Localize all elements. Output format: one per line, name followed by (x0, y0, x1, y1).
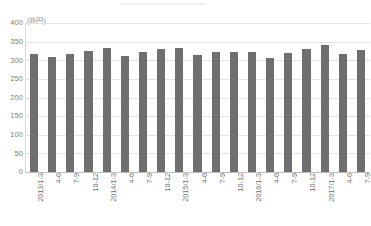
bar (230, 52, 238, 172)
bar (339, 54, 347, 172)
bar (212, 52, 220, 172)
top-edge-artifact (120, 3, 206, 5)
y-axis-tick-label: 300 (1, 57, 23, 64)
y-axis-tick-label: 150 (1, 112, 23, 119)
x-axis-tick-label: 2014/1-3 (110, 173, 117, 225)
y-axis-tick-label: 400 (1, 19, 23, 26)
x-axis-tick-label: 4-6 (55, 173, 62, 225)
bar-chart: (兆円) 400350300250200150100500 2013/1-34-… (0, 0, 371, 226)
x-axis-tick-label: 7-9 (291, 173, 298, 225)
x-axis-tick-label: 7-9 (219, 173, 226, 225)
bar-series (25, 23, 370, 172)
bar (48, 57, 56, 172)
x-axis-tick-label: 4-6 (346, 173, 353, 225)
x-axis-tick-label: 4-6 (201, 173, 208, 225)
x-axis-tick-label: 7-9 (364, 173, 371, 225)
bar (284, 53, 292, 172)
x-axis-tick-labels: 2013/1-34-67-910-122014/1-34-67-910-1220… (25, 173, 370, 226)
bar (266, 58, 274, 172)
bar (139, 52, 147, 172)
x-axis-tick-label: 7-9 (73, 173, 80, 225)
bar (66, 54, 74, 172)
bar (302, 49, 310, 172)
x-axis-tick-label: 10-12 (164, 173, 171, 225)
y-axis-tick-labels: 400350300250200150100500 (0, 0, 23, 226)
x-axis-tick-label: 2016/1-3 (255, 173, 262, 225)
bar (357, 50, 365, 172)
x-axis-tick-label: 10-12 (237, 173, 244, 225)
bar (84, 51, 92, 172)
bar (103, 48, 111, 172)
bar (157, 49, 165, 172)
x-axis-tick-label: 7-9 (146, 173, 153, 225)
x-axis-tick-label: 4-6 (128, 173, 135, 225)
bar (30, 54, 38, 172)
bar (121, 56, 129, 172)
bar (321, 45, 329, 172)
y-axis-tick-label: 250 (1, 75, 23, 82)
x-axis-tick-label: 2017/1-3 (328, 173, 335, 225)
x-axis-tick-label: 10-12 (309, 173, 316, 225)
bar (193, 55, 201, 172)
bar (248, 52, 256, 172)
y-axis-tick-label: 200 (1, 94, 23, 101)
x-axis-tick-label: 2013/1-3 (37, 173, 44, 225)
y-axis-tick-label: 0 (1, 168, 23, 175)
y-axis-tick-label: 350 (1, 38, 23, 45)
x-axis-tick-label: 2015/1-3 (182, 173, 189, 225)
bar (175, 48, 183, 172)
y-axis-tick-label: 50 (1, 150, 23, 157)
y-axis-tick-label: 100 (1, 131, 23, 138)
plot-area (25, 23, 370, 172)
x-axis-tick-label: 4-6 (273, 173, 280, 225)
x-axis-tick-label: 10-12 (92, 173, 99, 225)
